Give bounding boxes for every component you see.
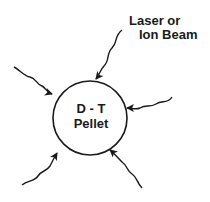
pellet-label-line2: Pellet (60, 116, 122, 131)
beam-lower-right-wavy-arrow (110, 150, 142, 188)
beam-top-wavy-arrow (96, 30, 122, 79)
beam-label-line2: Ion Beam (139, 28, 198, 42)
beam-label-line1: Laser or (129, 14, 180, 28)
diagram-canvas: Laser or Ion Beam D - T Pellet (0, 0, 210, 202)
beam-right-wavy-arrow (127, 97, 172, 109)
pellet-label-line1: D - T (60, 101, 122, 116)
beam-upper-left-wavy-arrow (14, 67, 52, 94)
beam-lower-left-wavy-arrow (22, 153, 57, 185)
